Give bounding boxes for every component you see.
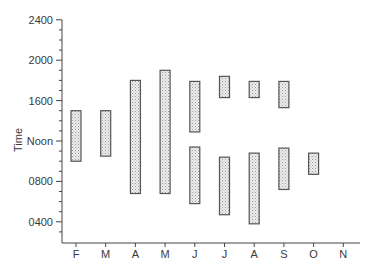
y-tick-label: Noon	[27, 135, 53, 147]
x-tick-label: M	[101, 248, 110, 260]
y-tick-label: 0400	[29, 216, 53, 228]
range-bar	[71, 111, 81, 162]
y-tick-label: 0800	[29, 175, 53, 187]
y-axis: 04000800Noon160020002400	[27, 14, 62, 243]
y-tick-label: 1600	[29, 95, 53, 107]
y-axis-label: Time	[12, 128, 24, 152]
time-range-chart: 04000800Noon160020002400 FMAMJJASON Time	[0, 0, 370, 272]
x-tick-label: N	[339, 248, 347, 260]
range-bar	[130, 80, 140, 193]
range-bar	[309, 153, 319, 174]
range-bar	[279, 148, 289, 189]
y-tick-label: 2000	[29, 54, 53, 66]
range-bar	[249, 153, 259, 224]
x-tick-label: A	[132, 248, 140, 260]
y-tick-label: 2400	[29, 14, 53, 26]
range-bar	[190, 81, 200, 132]
range-bar	[279, 81, 289, 107]
x-tick-label: A	[251, 248, 259, 260]
x-tick-label: J	[222, 248, 228, 260]
range-bar	[101, 111, 111, 156]
range-bar	[220, 76, 230, 97]
x-tick-label: J	[192, 248, 198, 260]
range-bar	[190, 147, 200, 204]
x-tick-label: M	[161, 248, 170, 260]
x-axis: FMAMJJASON	[62, 243, 360, 260]
x-tick-label: O	[309, 248, 318, 260]
range-bar	[160, 70, 170, 193]
range-bar	[220, 157, 230, 215]
x-tick-label: S	[280, 248, 287, 260]
x-tick-label: F	[73, 248, 80, 260]
range-bar	[249, 81, 259, 97]
bars	[71, 70, 319, 224]
